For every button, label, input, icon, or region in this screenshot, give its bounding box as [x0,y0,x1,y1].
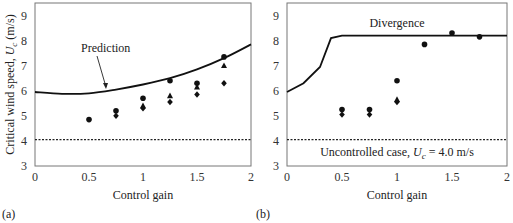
y-tick-label: 4 [21,134,27,148]
prediction-curve [35,44,251,94]
x-tick-label: 0 [32,170,38,184]
y-tick-label: 6 [273,84,279,98]
y-tick-label: 7 [273,59,279,73]
prediction-arrow [97,56,106,87]
chart-figure: 345678900.511.52Control gain(a)Critical … [0,0,513,223]
data-point-diamond [194,91,200,97]
x-tick-label: 1.5 [445,170,460,184]
panel-label: (a) [2,207,15,221]
prediction-annotation: Prediction [81,41,130,55]
data-point-diamond [167,99,173,105]
divergence-curve [287,36,507,92]
y-tick-label: 3 [21,159,27,173]
y-tick-label: 8 [273,34,279,48]
x-axis-label: Control gain [367,188,427,202]
data-point-circle [167,78,173,84]
data-point-circle [477,34,483,40]
panel-label: (b) [256,207,270,221]
chart-panel-a: 345678900.511.52Control gain(a)Critical … [2,3,254,221]
x-axis-label: Control gain [113,188,173,202]
y-tick-label: 8 [21,34,27,48]
uncontrolled-annotation: Uncontrolled case, Uc = 4.0 m/s [320,145,474,161]
chart-panel-b: 345678900.511.52Control gain(b)Divergenc… [256,3,510,221]
y-tick-label: 3 [273,159,279,173]
data-point-diamond [140,105,146,111]
x-tick-label: 0 [284,170,290,184]
data-point-circle [449,30,455,36]
x-tick-label: 2 [248,170,254,184]
data-point-circle [422,42,428,48]
data-point-diamond [113,113,119,119]
y-axis-label: Critical wind speed, Uc (m/s) [3,14,19,154]
x-tick-label: 2 [504,170,510,184]
data-point-circle [394,78,400,84]
arrow-head-icon [103,83,108,89]
data-point-diamond [339,111,345,117]
data-point-circle [86,117,92,123]
data-point-triangle [221,62,227,68]
y-tick-label: 9 [21,9,27,23]
y-tick-label: 7 [21,59,27,73]
data-point-diamond [367,111,373,117]
data-point-diamond [394,99,400,105]
x-tick-label: 0.5 [335,170,350,184]
data-point-triangle [167,92,173,98]
divergence-annotation: Divergence [369,16,424,30]
x-tick-label: 1.5 [190,170,205,184]
y-tick-label: 5 [21,109,27,123]
data-point-diamond [221,80,227,86]
x-tick-label: 0.5 [82,170,97,184]
y-tick-label: 9 [273,9,279,23]
y-tick-label: 4 [273,134,279,148]
y-tick-label: 6 [21,84,27,98]
x-tick-label: 1 [394,170,400,184]
x-tick-label: 1 [140,170,146,184]
data-point-circle [140,95,146,101]
y-tick-label: 5 [273,109,279,123]
data-point-circle [221,54,227,60]
